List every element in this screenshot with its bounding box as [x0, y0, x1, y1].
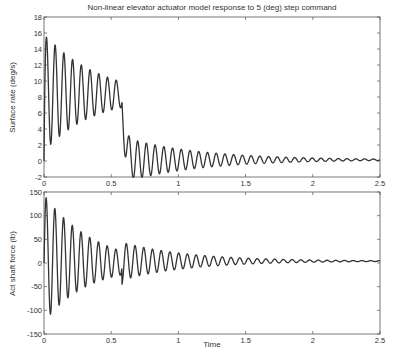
axes-frame — [44, 192, 380, 334]
y-tick-label: 8 — [38, 93, 42, 102]
x-tick-label: 0 — [42, 179, 46, 188]
data-series-line — [44, 198, 380, 314]
x-tick-label: 2 — [311, 179, 315, 188]
y-tick-label: 100 — [29, 211, 42, 220]
y-tick-label: -100 — [27, 306, 42, 315]
y-tick-label: 0 — [38, 259, 42, 268]
y-tick-label: 6 — [38, 109, 42, 118]
y-tick-label: 150 — [29, 188, 42, 197]
surface-rate-axes: 00.511.522.5-2024681012141618 — [34, 13, 386, 188]
y-tick-label: -50 — [31, 282, 42, 291]
y-tick-label: 18 — [34, 13, 42, 22]
y-tick-label: 0 — [38, 157, 42, 166]
y-tick-label: -2 — [35, 173, 42, 182]
x-tick-label: 0.5 — [106, 179, 116, 188]
x-tick-label: 1.5 — [240, 179, 250, 188]
y-tick-label: 16 — [34, 29, 42, 38]
y-axis-label-surface-rate: Surface rate (deg/s) — [7, 62, 16, 133]
data-series-line — [44, 37, 380, 177]
y-tick-label: 2 — [38, 141, 42, 150]
y-tick-label: 12 — [34, 61, 42, 70]
y-tick-label: -150 — [27, 330, 42, 339]
shaft-force-axes: 00.511.522.5-150-100-50050100150 — [27, 188, 385, 345]
y-tick-label: 50 — [34, 235, 42, 244]
y-tick-label: 14 — [34, 45, 42, 54]
x-tick-label: 2.5 — [375, 179, 385, 188]
y-tick-label: 4 — [38, 125, 42, 134]
figure-canvas: 00.511.522.5-2024681012141618 00.511.522… — [0, 0, 398, 357]
y-tick-label: 10 — [34, 77, 42, 86]
y-axis-label-shaft-force: Act shaft force (lb) — [7, 231, 16, 296]
x-axis-label-time: Time — [44, 340, 380, 349]
axes-frame — [44, 17, 380, 177]
x-tick-label: 1 — [176, 179, 180, 188]
